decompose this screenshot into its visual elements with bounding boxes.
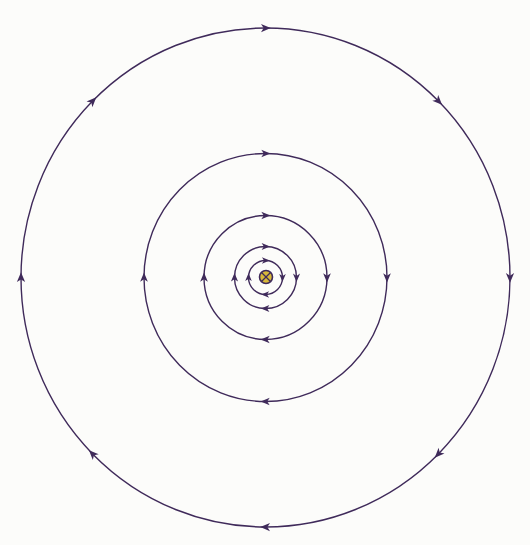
wire-current-into-page — [260, 271, 273, 284]
magnetic-field-diagram — [0, 0, 530, 545]
